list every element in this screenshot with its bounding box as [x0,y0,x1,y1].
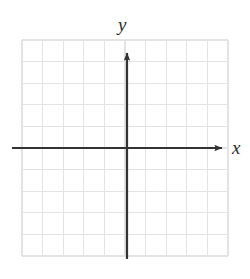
y-axis-label: y [118,15,126,34]
x-axis-label: x [232,138,240,157]
coordinate-plane-svg [0,0,250,279]
coordinate-plane-figure: y x [0,0,250,279]
